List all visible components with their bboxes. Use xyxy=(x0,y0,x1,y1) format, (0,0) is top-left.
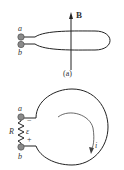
field-arrow xyxy=(69,12,73,70)
terminal-a-top xyxy=(18,34,24,40)
terminal-b-bottom xyxy=(18,144,24,150)
resistor xyxy=(18,118,24,146)
loop-a xyxy=(24,31,110,50)
terminal-a-label-bottom: a xyxy=(18,105,22,113)
terminal-b-label-top: b xyxy=(18,49,22,57)
current-arrow xyxy=(58,113,94,154)
field-label-b: B xyxy=(76,11,82,20)
plus-sign: + xyxy=(27,136,32,144)
terminal-b-top xyxy=(18,41,24,47)
terminal-b-label-bottom: b xyxy=(18,153,22,161)
terminal-a-bottom xyxy=(18,114,24,120)
resistor-label: R xyxy=(9,128,14,136)
minus-sign: − xyxy=(27,117,32,125)
figure-caption-a: (a) xyxy=(63,70,72,78)
loop-b xyxy=(21,89,108,165)
terminal-a-label-top: a xyxy=(18,25,22,33)
current-label: i xyxy=(95,142,97,150)
